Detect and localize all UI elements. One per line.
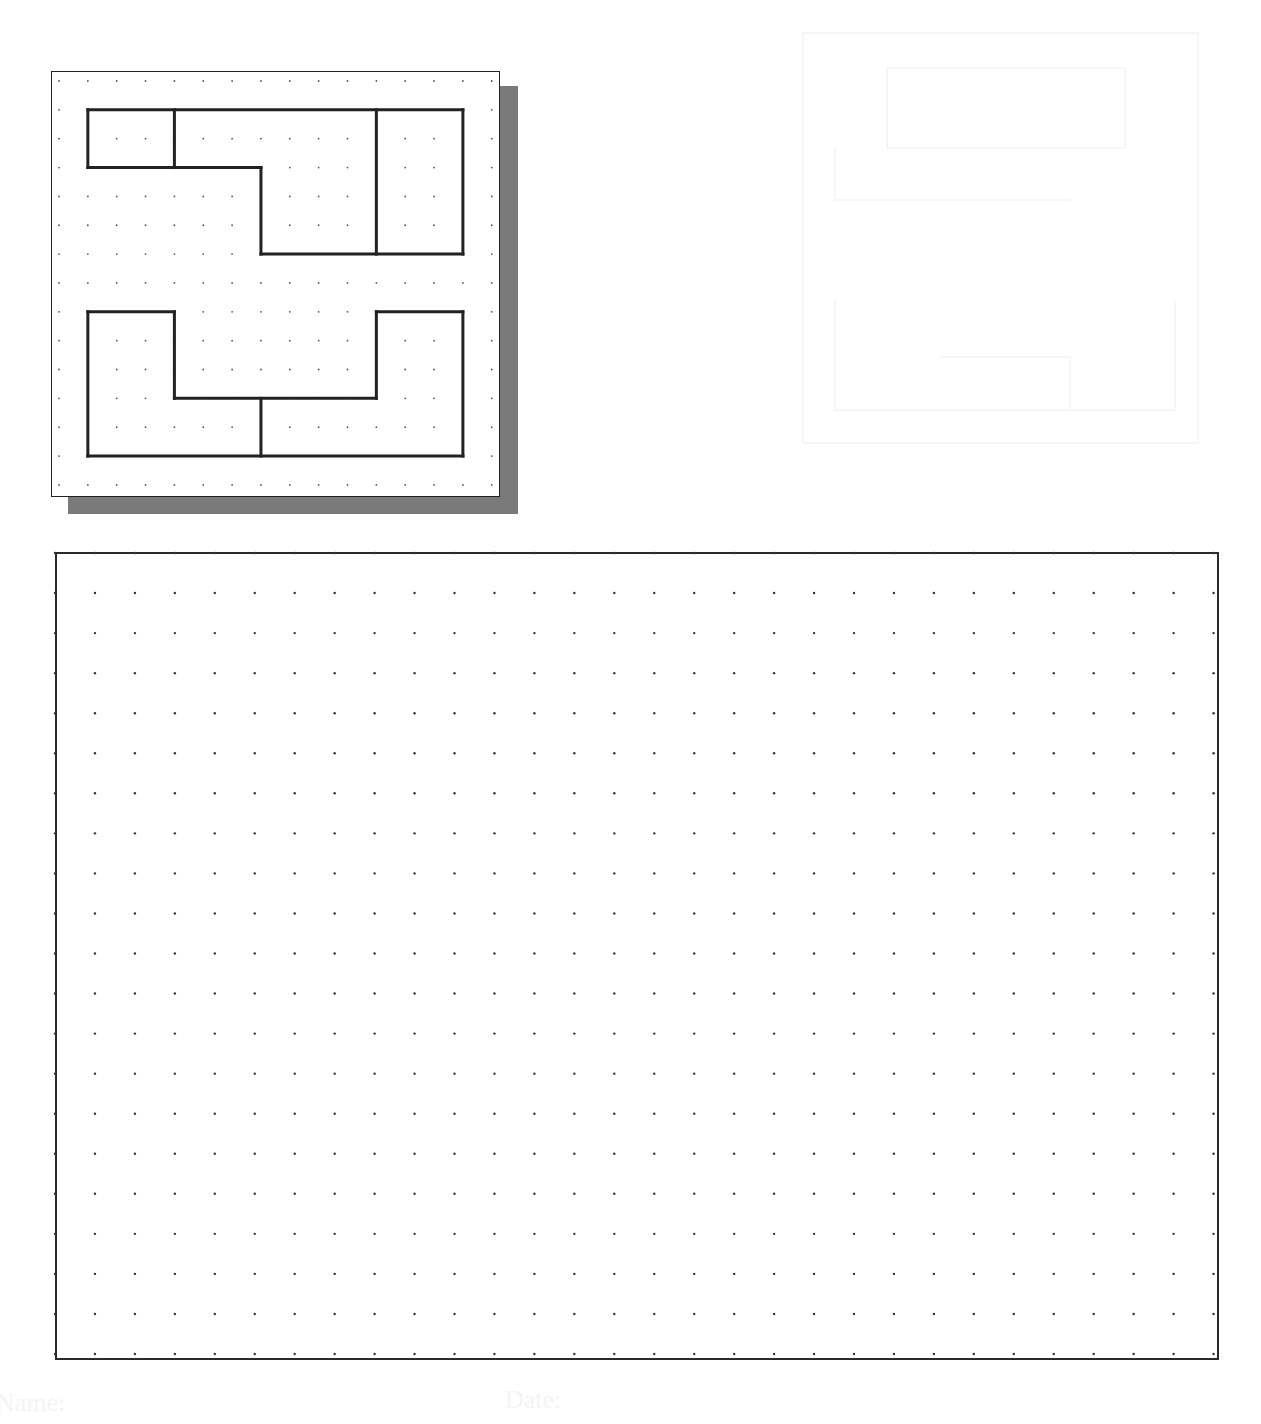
sketch-area-dot-grid[interactable] xyxy=(0,0,1261,1424)
name-label: Name: xyxy=(0,1388,65,1418)
date-label: Date: xyxy=(505,1385,561,1415)
